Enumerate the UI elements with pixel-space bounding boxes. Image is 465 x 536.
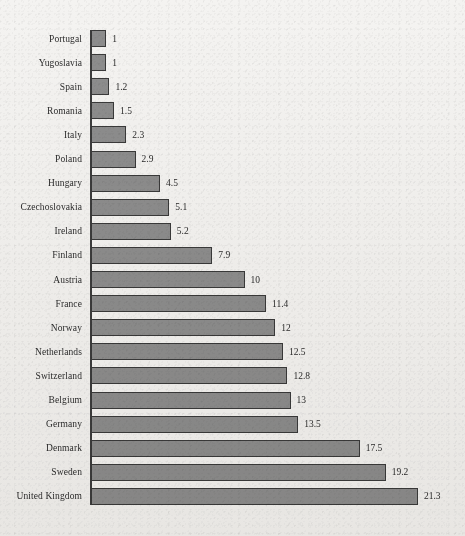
bar bbox=[91, 247, 212, 264]
bar-row: Ireland5.2 bbox=[0, 223, 465, 240]
bar bbox=[91, 54, 106, 71]
category-label: Austria bbox=[0, 275, 82, 285]
category-label: Sweden bbox=[0, 467, 82, 477]
bar-chart: Portugal1Yugoslavia1Spain1.2Romania1.5It… bbox=[0, 0, 465, 536]
bar-value-label: 1 bbox=[112, 58, 117, 68]
bar-row: Belgium13 bbox=[0, 392, 465, 409]
bar-value-label: 2.3 bbox=[132, 130, 144, 140]
bar-value-label: 1.5 bbox=[120, 106, 132, 116]
bar-value-label: 5.1 bbox=[175, 202, 187, 212]
bar bbox=[91, 319, 275, 336]
category-label: Portugal bbox=[0, 34, 82, 44]
category-label: Italy bbox=[0, 130, 82, 140]
bar-row: France11.4 bbox=[0, 295, 465, 312]
bar-row: Portugal1 bbox=[0, 30, 465, 47]
category-label: Denmark bbox=[0, 443, 82, 453]
category-label: United Kingdom bbox=[0, 491, 82, 501]
bar bbox=[91, 199, 169, 216]
bar bbox=[91, 126, 126, 143]
category-label: Poland bbox=[0, 154, 82, 164]
category-label: Belgium bbox=[0, 395, 82, 405]
bar bbox=[91, 175, 160, 192]
bar-row: Czechoslovakia5.1 bbox=[0, 199, 465, 216]
bar bbox=[91, 30, 106, 47]
bar-row: Germany13.5 bbox=[0, 416, 465, 433]
category-label: Hungary bbox=[0, 178, 82, 188]
bar-row: Switzerland12.8 bbox=[0, 367, 465, 384]
bar-value-label: 11.4 bbox=[272, 299, 288, 309]
bar-value-label: 12 bbox=[281, 323, 291, 333]
bar bbox=[91, 223, 171, 240]
bar-row: United Kingdom21.3 bbox=[0, 488, 465, 505]
category-label: Ireland bbox=[0, 226, 82, 236]
bar-row: Norway12 bbox=[0, 319, 465, 336]
category-label: Netherlands bbox=[0, 347, 82, 357]
category-label: Czechoslovakia bbox=[0, 202, 82, 212]
bar bbox=[91, 416, 298, 433]
bar bbox=[91, 295, 266, 312]
bar-value-label: 5.2 bbox=[177, 226, 189, 236]
bar bbox=[91, 464, 386, 481]
category-label: France bbox=[0, 299, 82, 309]
category-label: Germany bbox=[0, 419, 82, 429]
bar bbox=[91, 78, 109, 95]
bar-row: Yugoslavia1 bbox=[0, 54, 465, 71]
bar-row: Italy2.3 bbox=[0, 126, 465, 143]
category-label: Switzerland bbox=[0, 371, 82, 381]
category-label: Yugoslavia bbox=[0, 58, 82, 68]
bar bbox=[91, 392, 291, 409]
bar-value-label: 17.5 bbox=[366, 443, 383, 453]
bar-row: Sweden19.2 bbox=[0, 464, 465, 481]
bar-value-label: 1 bbox=[112, 34, 117, 44]
bar-row: Hungary4.5 bbox=[0, 175, 465, 192]
bar-value-label: 10 bbox=[251, 275, 261, 285]
bar-row: Netherlands12.5 bbox=[0, 343, 465, 360]
bar-value-label: 12.8 bbox=[293, 371, 310, 381]
bar-row: Spain1.2 bbox=[0, 78, 465, 95]
bar bbox=[91, 271, 245, 288]
bar-value-label: 4.5 bbox=[166, 178, 178, 188]
bar-value-label: 1.2 bbox=[115, 82, 127, 92]
bar-row: Romania1.5 bbox=[0, 102, 465, 119]
bar bbox=[91, 488, 418, 505]
bar-row: Austria10 bbox=[0, 271, 465, 288]
bar-row: Finland7.9 bbox=[0, 247, 465, 264]
bar bbox=[91, 367, 287, 384]
bar bbox=[91, 440, 360, 457]
bar-value-label: 21.3 bbox=[424, 491, 441, 501]
bar-row: Poland2.9 bbox=[0, 151, 465, 168]
y-axis-line bbox=[90, 30, 92, 505]
category-label: Finland bbox=[0, 250, 82, 260]
bar bbox=[91, 102, 114, 119]
bar-value-label: 13.5 bbox=[304, 419, 321, 429]
category-label: Spain bbox=[0, 82, 82, 92]
bar-value-label: 13 bbox=[297, 395, 307, 405]
bar-value-label: 7.9 bbox=[218, 250, 230, 260]
bar bbox=[91, 151, 136, 168]
bar-value-label: 2.9 bbox=[142, 154, 154, 164]
bar bbox=[91, 343, 283, 360]
bar-row: Denmark17.5 bbox=[0, 440, 465, 457]
bar-value-label: 19.2 bbox=[392, 467, 409, 477]
category-label: Norway bbox=[0, 323, 82, 333]
bar-value-label: 12.5 bbox=[289, 347, 306, 357]
category-label: Romania bbox=[0, 106, 82, 116]
